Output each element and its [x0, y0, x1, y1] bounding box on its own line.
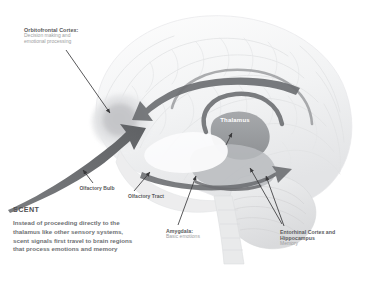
- label-entorhinal-hippocampus: Entorhinal Cortex and Hippocampus Memory: [280, 229, 350, 247]
- label-orbitofrontal-sub: Decision making and emotional processing: [24, 33, 90, 45]
- label-entorhinal-sub: Memory: [280, 241, 350, 247]
- label-amygdala-sub: Basic emotions: [166, 234, 218, 240]
- label-orbitofrontal-cortex: Orbitofrontal Cortex: Decision making an…: [24, 27, 90, 45]
- label-amygdala: Amygdala: Basic emotions: [166, 228, 218, 240]
- scent-heading: SCENT: [13, 205, 39, 214]
- scent-description: Instead of proceeding directly to the th…: [13, 219, 135, 254]
- label-thalamus: Thalamus: [213, 117, 257, 123]
- figure-canvas: Orbitofrontal Cortex: Decision making an…: [0, 0, 375, 283]
- label-olfactory-bulb-title: Olfactory Bulb: [78, 186, 116, 192]
- label-olfactory-bulb: Olfactory Bulb: [78, 186, 116, 192]
- label-olfactory-tract: Olfactory Tract: [127, 194, 165, 200]
- label-olfactory-tract-title: Olfactory Tract: [127, 194, 165, 200]
